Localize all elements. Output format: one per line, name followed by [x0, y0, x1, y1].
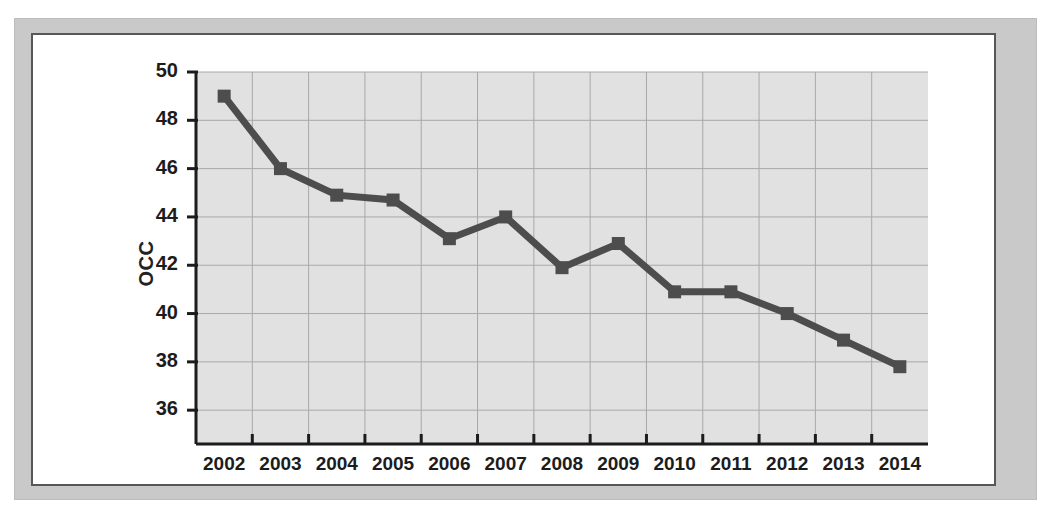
- y-tick-label: 44: [134, 204, 178, 227]
- plot-area-background: [196, 72, 928, 444]
- y-tick-label: 38: [134, 349, 178, 372]
- x-tick-label: 2010: [645, 453, 705, 475]
- data-point-marker: [556, 261, 569, 274]
- y-tick-label: 36: [134, 397, 178, 420]
- y-tick-label: 48: [134, 107, 178, 130]
- x-tick-label: 2006: [419, 453, 479, 475]
- data-point-marker: [668, 285, 681, 298]
- data-point-marker: [443, 232, 456, 245]
- scanned-page: OCC 5048464442403836 2002200320042005200…: [0, 0, 1061, 517]
- data-point-marker: [612, 237, 625, 250]
- line-chart: OCC 5048464442403836 2002200320042005200…: [31, 33, 996, 486]
- x-tick-label: 2013: [814, 453, 874, 475]
- data-point-marker: [499, 210, 512, 223]
- data-point-marker: [724, 285, 737, 298]
- x-tick-label: 2008: [532, 453, 592, 475]
- data-point-marker: [893, 360, 906, 373]
- y-tick-label: 42: [134, 252, 178, 275]
- y-tick-label: 50: [134, 59, 178, 82]
- x-tick-label: 2003: [250, 453, 310, 475]
- x-tick-label: 2014: [870, 453, 930, 475]
- x-tick-label: 2009: [588, 453, 648, 475]
- data-point-marker: [330, 189, 343, 202]
- data-point-marker: [837, 334, 850, 347]
- x-tick-label: 2007: [476, 453, 536, 475]
- data-point-marker: [387, 194, 400, 207]
- y-tick-label: 40: [134, 301, 178, 324]
- x-tick-label: 2004: [307, 453, 367, 475]
- x-tick-label: 2002: [194, 453, 254, 475]
- data-point-marker: [274, 162, 287, 175]
- data-point-marker: [218, 90, 231, 103]
- data-point-marker: [781, 307, 794, 320]
- x-tick-label: 2012: [757, 453, 817, 475]
- x-tick-label: 2005: [363, 453, 423, 475]
- y-tick-label: 46: [134, 156, 178, 179]
- x-tick-label: 2011: [701, 453, 761, 475]
